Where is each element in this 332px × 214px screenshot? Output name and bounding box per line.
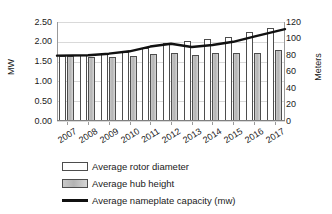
y-axis-right-tick: 20 (286, 99, 314, 110)
y-axis-right-ticks: 020406080100120 (286, 16, 314, 127)
white-bar-swatch-icon (62, 162, 88, 171)
y-axis-left-title: MW (6, 47, 16, 87)
x-axis-tick-mark (109, 122, 110, 125)
chart-legend: Average rotor diameter Average hub heigh… (62, 158, 312, 209)
y-axis-right-tick: 0 (286, 116, 314, 127)
x-axis-tick-mark (233, 122, 234, 125)
gray-bar-swatch-icon (62, 179, 88, 188)
x-axis-tick-mark (212, 122, 213, 125)
x-axis-ticks: 2007200820092010201120122013201420152016… (57, 122, 285, 152)
line-series-capacity (57, 22, 285, 121)
x-axis-tick-mark (130, 122, 131, 125)
legend-label-hub-height: Average hub height (92, 178, 174, 189)
y-axis-right-tick: 80 (286, 50, 314, 61)
y-axis-left-tick: 1.50 (24, 56, 52, 67)
legend-label-nameplate-capacity: Average nameplate capacity (mw) (92, 195, 235, 206)
y-axis-left-ticks: 0.000.501.001.502.002.50 (24, 16, 52, 127)
y-axis-left-tick: 0.00 (24, 116, 52, 127)
y-axis-left-tick: 1.00 (24, 76, 52, 87)
y-axis-right-tick: 40 (286, 83, 314, 94)
y-axis-right-tick: 100 (286, 33, 314, 44)
legend-item-rotor-diameter: Average rotor diameter (62, 158, 312, 175)
legend-item-hub-height: Average hub height (62, 175, 312, 192)
y-axis-right-tick: 60 (286, 66, 314, 77)
y-axis-right-title: Meters (313, 45, 323, 89)
x-axis-tick-mark (171, 122, 172, 125)
y-axis-left-tick: 0.50 (24, 96, 52, 107)
x-axis-tick-mark (67, 122, 68, 125)
legend-label-rotor-diameter: Average rotor diameter (92, 161, 189, 172)
legend-item-nameplate-capacity: Average nameplate capacity (mw) (62, 192, 312, 209)
x-axis-tick-mark (254, 122, 255, 125)
y-axis-left-tick: 2.50 (24, 17, 52, 28)
y-axis-right-tick: 120 (286, 17, 314, 28)
plot-area (57, 22, 285, 121)
x-axis-tick-mark (88, 122, 89, 125)
x-axis-tick-mark (150, 122, 151, 125)
y-axis-left-tick: 2.00 (24, 36, 52, 47)
axis-baseline (57, 120, 285, 121)
x-axis-tick-mark (275, 122, 276, 125)
chart-container: MW Meters 0.000.501.001.502.002.50 02040… (0, 0, 332, 214)
x-axis-tick-mark (192, 122, 193, 125)
black-line-swatch-icon (62, 199, 88, 202)
